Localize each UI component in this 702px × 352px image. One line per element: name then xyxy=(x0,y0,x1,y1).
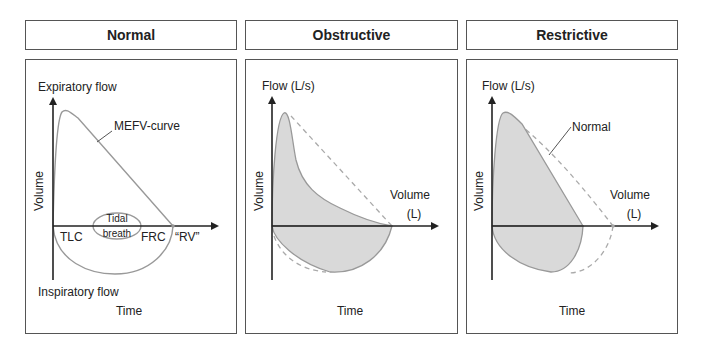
restrictive-x-volume-label: Volume xyxy=(610,188,650,202)
restrictive-normal-leader-line xyxy=(549,127,571,155)
mefv-curve-label: MEFV-curve xyxy=(114,119,180,133)
obstructive-x-volume-label: Volume xyxy=(390,188,430,202)
restrictive-inspiratory-curve xyxy=(492,226,583,272)
obstructive-flow-label: Flow (L/s) xyxy=(262,79,315,93)
restrictive-volume-axis-label: Volume xyxy=(472,171,486,211)
tidal-label-line2: breath xyxy=(103,228,131,239)
restrictive-time-label: Time xyxy=(559,304,586,318)
obstructive-time-label: Time xyxy=(337,304,364,318)
mefv-leader-line xyxy=(97,131,112,142)
obstructive-chart: Flow (L/s) Volume Volume (L) Time xyxy=(252,79,437,318)
restrictive-normal-end-marker xyxy=(611,224,615,228)
normal-time-label: Time xyxy=(116,304,143,318)
restrictive-chart: Flow (L/s) Volume Normal Volume (L) Time xyxy=(472,79,657,318)
obstructive-expiratory-curve xyxy=(272,113,392,226)
restrictive-x-unit-label: (L) xyxy=(627,207,642,221)
normal-inspiratory-label: Inspiratory flow xyxy=(38,285,119,299)
obstructive-x-unit-label: (L) xyxy=(407,207,422,221)
normal-expiratory-label: Expiratory flow xyxy=(38,80,117,94)
obstructive-volume-axis-label: Volume xyxy=(252,171,266,211)
rv-label: “RV” xyxy=(175,230,199,244)
restrictive-normal-label: Normal xyxy=(572,120,611,134)
normal-chart: Expiratory flow Inspiratory flow Time Vo… xyxy=(32,80,217,318)
obstructive-inspiratory-curve xyxy=(272,226,392,272)
normal-volume-label: Volume xyxy=(32,171,46,211)
tidal-label-line1: Tidal xyxy=(106,213,127,224)
restrictive-flow-label: Flow (L/s) xyxy=(482,79,535,93)
diagram-canvas: Expiratory flow Inspiratory flow Time Vo… xyxy=(0,0,702,352)
tlc-label: TLC xyxy=(60,230,83,244)
frc-label: FRC xyxy=(141,230,166,244)
rv-point-marker xyxy=(171,224,175,228)
